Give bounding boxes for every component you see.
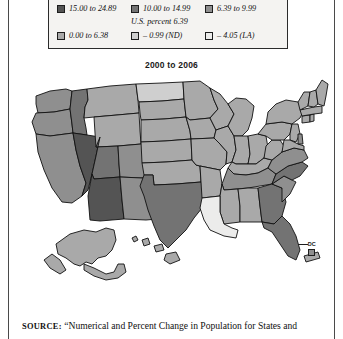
state-MN xyxy=(183,81,218,120)
legend-spacer-right xyxy=(205,16,279,28)
state-MT xyxy=(84,84,139,118)
choropleth-map: DC xyxy=(14,78,329,290)
dc-swatch xyxy=(308,249,315,256)
state-FL xyxy=(262,216,300,260)
legend-label-5: – 4.05 (LA) xyxy=(217,30,255,41)
state-NE xyxy=(141,117,191,142)
legend-swatch-minus-0-99-nd xyxy=(131,32,139,40)
state-AR xyxy=(200,166,222,198)
legend-label-0: 15.00 to 24.89 xyxy=(69,3,116,14)
state-AZ xyxy=(88,174,124,221)
legend-label-1: 10.00 to 14.99 xyxy=(143,3,190,14)
map-legend: 15.00 to 24.89 10.00 to 14.99 6.39 to 9.… xyxy=(48,0,288,49)
legend-swatch-minus-4-05-la xyxy=(205,32,213,40)
legend-item-5: – 4.05 (LA) xyxy=(205,30,279,41)
dc-label: DC xyxy=(308,241,316,247)
source-note: SOURCE: “Numerical and Percent Change in… xyxy=(22,320,325,333)
us-states-map-svg xyxy=(14,78,329,290)
state-ME xyxy=(316,80,328,106)
legend-label-2: 6.39 to 9.99 xyxy=(217,3,256,14)
legend-item-4: – 0.99 (ND) xyxy=(131,30,205,41)
source-label: SOURCE: xyxy=(22,322,62,331)
page-rule-left xyxy=(8,0,9,339)
state-WY xyxy=(94,113,141,147)
state-MS xyxy=(220,184,240,224)
legend-item-0: 15.00 to 24.89 xyxy=(57,3,131,14)
legend-item-1: 10.00 to 14.99 xyxy=(131,3,205,14)
state-SD xyxy=(139,99,186,120)
state-AK xyxy=(44,228,126,280)
legend-spacer-left xyxy=(57,16,131,28)
state-VT xyxy=(298,92,310,110)
legend-swatch-0-00-to-6-38 xyxy=(57,32,65,40)
map-title: 2000 to 2006 xyxy=(0,60,343,70)
legend-label-3: 0.00 to 6.38 xyxy=(69,30,108,41)
state-KS xyxy=(141,139,192,163)
page-rule-right xyxy=(334,0,335,339)
state-OR xyxy=(32,109,73,136)
legend-grid: 15.00 to 24.89 10.00 to 14.99 6.39 to 9.… xyxy=(57,3,279,41)
legend-label-4: – 0.99 (ND) xyxy=(143,30,182,41)
legend-swatch-6-39-to-9-99 xyxy=(205,5,213,13)
state-DE xyxy=(298,134,303,144)
state-ND xyxy=(136,82,184,102)
state-RI xyxy=(310,114,314,122)
legend-swatch-10-00-to-14-99 xyxy=(131,5,139,13)
legend-swatch-15-00-to-24-89 xyxy=(57,5,65,13)
legend-item-2: 6.39 to 9.99 xyxy=(205,3,279,14)
legend-item-3: 0.00 to 6.38 xyxy=(57,30,131,41)
state-TX xyxy=(140,175,206,248)
source-text: “Numerical and Percent Change in Populat… xyxy=(64,320,297,331)
legend-us-percent-note: U.S. percent 6.39 xyxy=(131,16,205,28)
dc-leader-line xyxy=(298,244,308,245)
